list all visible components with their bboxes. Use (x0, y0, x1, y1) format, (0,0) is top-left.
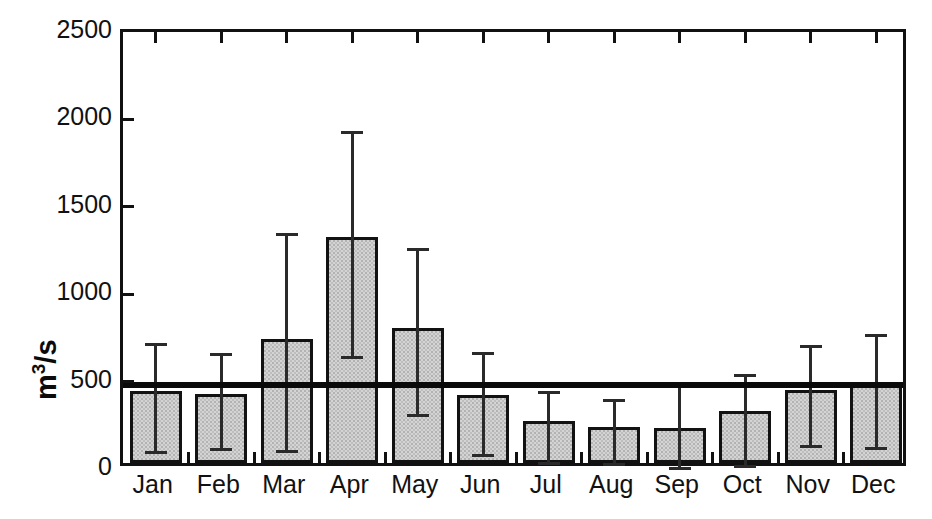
x-axis-tick-top (351, 32, 354, 43)
error-bar-line-apr (351, 133, 354, 358)
error-bar-line-oct (744, 375, 747, 466)
error-bar-cap-lower-feb (210, 448, 232, 451)
error-bar-cap-lower-jul (538, 462, 560, 465)
y-axis-tick-label: 1500 (0, 189, 112, 218)
x-axis-tick-top (875, 32, 878, 43)
error-bar-line-may (416, 250, 419, 416)
y-axis-tick (123, 118, 134, 121)
error-bar-cap-lower-jan (145, 451, 167, 454)
annual-mean-line (123, 382, 903, 388)
x-axis-tick-top (809, 32, 812, 43)
x-axis-label-jul: Jul (530, 470, 562, 499)
x-axis-tick (777, 452, 780, 463)
error-bar-cap-lower-jun (472, 454, 494, 457)
x-axis-label-dec: Dec (851, 470, 895, 499)
x-axis-tick (711, 452, 714, 463)
x-axis-label-jan: Jan (133, 470, 173, 499)
error-bar-cap-lower-may (407, 414, 429, 417)
x-axis-label-sep: Sep (655, 470, 699, 499)
x-axis-tick (580, 452, 583, 463)
x-axis-label-may: May (391, 470, 438, 499)
error-bar-line-feb (220, 355, 223, 450)
x-axis-tick-top (220, 32, 223, 43)
error-bar-line-jun (482, 354, 485, 455)
y-axis-tick-labels: 05001000150020002500 (0, 0, 112, 519)
error-bar-cap-lower-dec (865, 447, 887, 450)
x-axis-tick-labels: JanFebMarAprMayJunJulAugSepOctNovDec (120, 470, 906, 515)
error-bar-cap-upper-dec (865, 334, 887, 337)
x-axis-tick-top (482, 32, 485, 43)
x-axis-tick (515, 452, 518, 463)
x-axis-tick (384, 452, 387, 463)
x-axis-label-nov: Nov (786, 470, 830, 499)
x-axis-label-aug: Aug (589, 470, 633, 499)
x-axis-tick-top (285, 32, 288, 43)
x-axis-label-jun: Jun (460, 470, 500, 499)
x-axis-tick (187, 452, 190, 463)
x-axis-label-oct: Oct (723, 470, 762, 499)
y-axis-tick (123, 380, 134, 383)
y-axis-tick-label: 1000 (0, 277, 112, 306)
error-bar-cap-upper-may (407, 248, 429, 251)
x-axis-tick-top (416, 32, 419, 43)
x-axis-tick (842, 452, 845, 463)
error-bar-line-jul (547, 392, 550, 464)
y-axis-tick (123, 293, 134, 296)
error-bar-cap-lower-oct (734, 465, 756, 468)
x-axis-tick (253, 452, 256, 463)
y-axis-tick-label: 2500 (0, 15, 112, 44)
error-bar-cap-upper-jun (472, 352, 494, 355)
y-axis-tick-label: 500 (0, 364, 112, 393)
error-bar-cap-upper-apr (341, 131, 363, 134)
plot-area (120, 29, 906, 466)
x-axis-tick (646, 452, 649, 463)
error-bar-cap-upper-feb (210, 353, 232, 356)
error-bar-cap-upper-jul (538, 391, 560, 394)
y-axis-tick-label: 2000 (0, 102, 112, 131)
error-bar-cap-upper-oct (734, 374, 756, 377)
error-bar-line-sep (678, 383, 681, 468)
error-bar-cap-lower-mar (276, 450, 298, 453)
x-axis-tick-top (547, 32, 550, 43)
y-axis-tick-label: 0 (0, 452, 112, 481)
error-bar-line-nov (809, 347, 812, 447)
error-bar-cap-lower-nov (800, 445, 822, 448)
x-axis-tick-top (678, 32, 681, 43)
x-axis-tick (449, 452, 452, 463)
error-bar-cap-upper-nov (800, 345, 822, 348)
error-bar-line-aug (613, 401, 616, 465)
error-bar-line-dec (875, 335, 878, 449)
x-axis-tick-top (613, 32, 616, 43)
x-axis-tick (318, 452, 321, 463)
error-bar-line-mar (285, 235, 288, 452)
error-bar-cap-lower-apr (341, 356, 363, 359)
x-axis-tick-top (154, 32, 157, 43)
error-bar-line-jan (154, 345, 157, 453)
error-bar-cap-lower-aug (603, 463, 625, 466)
error-bar-cap-upper-aug (603, 399, 625, 402)
error-bar-cap-upper-mar (276, 233, 298, 236)
chart-figure: m3/s 05001000150020002500 JanFebMarAprMa… (0, 0, 932, 519)
x-axis-tick-top (744, 32, 747, 43)
y-axis-tick (123, 205, 134, 208)
error-bar-cap-upper-jan (145, 343, 167, 346)
x-axis-label-mar: Mar (262, 470, 305, 499)
x-axis-label-apr: Apr (330, 470, 369, 499)
x-axis-label-feb: Feb (197, 470, 240, 499)
